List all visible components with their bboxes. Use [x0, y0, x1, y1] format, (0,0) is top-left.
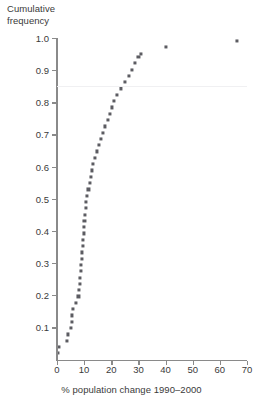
data-point [81, 251, 84, 254]
y-axis-title: Cumulative frequency [7, 3, 55, 26]
data-point [119, 87, 122, 90]
data-point [113, 99, 116, 102]
data-point [84, 207, 87, 210]
y-tick-label: 0.2 [3, 290, 49, 301]
data-point [82, 225, 85, 228]
y-tick-mark [52, 167, 56, 168]
cumulative-frequency-chart: Cumulative frequency % population change… [0, 0, 263, 407]
data-point [78, 289, 81, 292]
data-point [79, 282, 82, 285]
y-tick-mark [52, 263, 56, 264]
y-tick-label: 0.7 [3, 129, 49, 140]
data-point [83, 213, 86, 216]
data-point [70, 314, 73, 317]
x-tick-label: 50 [180, 364, 206, 375]
y-tick-mark [52, 295, 56, 296]
data-point [164, 46, 167, 49]
data-point [83, 219, 86, 222]
x-tick-label: 20 [98, 364, 124, 375]
y-tick-label: 0.5 [3, 193, 49, 204]
y-tick-label: 0.6 [3, 161, 49, 172]
data-point [115, 93, 118, 96]
y-tick-label: 0.4 [3, 225, 49, 236]
data-point [103, 125, 106, 128]
data-point [67, 333, 70, 336]
data-point [69, 326, 72, 329]
data-point [89, 175, 92, 178]
data-point [99, 137, 102, 140]
data-point [79, 276, 82, 279]
data-point [79, 270, 82, 273]
y-tick-label: 0.8 [3, 97, 49, 108]
data-point [85, 200, 88, 203]
x-axis-title: % population change 1990–2000 [0, 384, 263, 396]
data-point [92, 162, 95, 165]
data-point [71, 307, 74, 310]
gridline-y-0 [57, 86, 247, 87]
data-point [127, 74, 130, 77]
data-point [77, 295, 80, 298]
x-tick-label: 30 [125, 364, 151, 375]
data-point [102, 131, 105, 134]
data-point [133, 62, 136, 65]
data-point [111, 106, 114, 109]
data-point [97, 144, 100, 147]
data-point [82, 232, 85, 235]
data-point [106, 118, 109, 121]
data-point [82, 238, 85, 241]
x-tick-label: 40 [153, 364, 179, 375]
data-point [90, 169, 93, 172]
data-point [108, 112, 111, 115]
x-tick-label: 0 [44, 364, 70, 375]
data-point [80, 263, 83, 266]
data-point [95, 150, 98, 153]
x-tick-label: 60 [207, 364, 233, 375]
y-tick-label: 1.0 [3, 33, 49, 44]
data-point [123, 81, 126, 84]
y-tick-label: 0.3 [3, 258, 49, 269]
data-point [88, 181, 91, 184]
y-tick-mark [52, 70, 56, 71]
data-point [235, 40, 238, 43]
data-point [80, 257, 83, 260]
data-point [140, 53, 143, 56]
data-point [87, 188, 90, 191]
y-tick-mark [52, 231, 56, 232]
y-tick-mark [52, 134, 56, 135]
data-point [70, 320, 73, 323]
y-tick-mark [52, 199, 56, 200]
data-point [82, 244, 85, 247]
data-point [93, 156, 96, 159]
y-tick-label: 0.1 [3, 322, 49, 333]
data-point [130, 68, 133, 71]
data-point [65, 339, 68, 342]
x-tick-label: 10 [71, 364, 97, 375]
y-tick-mark [52, 102, 56, 103]
data-point [86, 194, 89, 197]
x-tick-label: 70 [234, 364, 260, 375]
y-tick-mark [52, 327, 56, 328]
y-tick-label: 0.9 [3, 65, 49, 76]
data-point [74, 301, 77, 304]
y-tick-mark [52, 38, 56, 39]
